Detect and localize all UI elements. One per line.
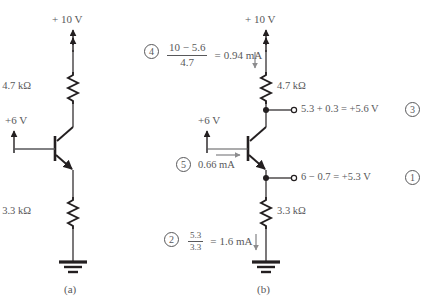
resistor-a-collector xyxy=(68,72,78,104)
callout-2: 2 xyxy=(164,232,179,247)
node-voltage-collector: 5.3 + 0.3 = +5.6 V xyxy=(301,104,379,115)
resistor-b-collector xyxy=(261,72,271,104)
caption-b: (b) xyxy=(257,283,270,295)
circuit-figure: + 10 V 4.7 kΩ +6 V 3.3 kΩ (a) + 10 V 4.7… xyxy=(0,0,427,301)
base-current-value: 0.66 mA xyxy=(198,160,235,171)
callout-4: 4 xyxy=(144,44,159,59)
node-voltage-emitter: 6 − 0.7 = +5.3 V xyxy=(301,172,371,183)
fraction-denominator: 4.7 xyxy=(178,56,196,69)
fraction-numerator: 5.3 xyxy=(188,231,203,242)
caption-a: (a) xyxy=(64,283,76,295)
resistor-b-emitter xyxy=(261,197,271,229)
callout-3: 3 xyxy=(405,102,420,117)
equation-step-2: 5.3 3.3 = 1.6 mA xyxy=(184,231,252,253)
resistor-label-a-emitter: 3.3 kΩ xyxy=(2,206,31,217)
base-supply-label-b: +6 V xyxy=(198,115,220,126)
circuit-a-artwork xyxy=(14,30,87,272)
terminal-emitter xyxy=(291,175,296,180)
equation-step-4: 10 − 5.6 4.7 = 0.94 mA xyxy=(163,42,262,68)
fraction-step-2: 5.3 3.3 xyxy=(188,231,203,253)
base-supply-a xyxy=(14,131,55,153)
base-supply-b xyxy=(207,131,248,153)
callout-1: 1 xyxy=(405,170,420,185)
transistor-b-emitter-lead xyxy=(249,155,265,169)
equals-sign: = xyxy=(210,236,216,247)
resistor-label-b-emitter: 3.3 kΩ xyxy=(277,206,306,217)
transistor-a-emitter-lead xyxy=(56,155,72,169)
equals-sign: = xyxy=(214,50,220,61)
transistor-a-collector-lead xyxy=(57,127,73,141)
resistor-label-b-collector: 4.7 kΩ xyxy=(277,81,306,92)
transistor-b-collector-lead xyxy=(250,127,266,141)
terminal-collector xyxy=(291,107,296,112)
equation-result: 1.6 mA xyxy=(219,236,252,247)
resistor-label-a-collector: 4.7 kΩ xyxy=(2,81,31,92)
callout-5: 5 xyxy=(176,157,191,172)
fraction-numerator: 10 − 5.6 xyxy=(167,42,207,56)
equation-result: 0.94 mA xyxy=(224,50,263,61)
supply-label-a: + 10 V xyxy=(52,14,82,25)
fraction-denominator: 3.3 xyxy=(188,242,203,252)
supply-label-b: + 10 V xyxy=(245,14,275,25)
fraction-step-4: 10 − 5.6 4.7 xyxy=(167,42,207,68)
ground-symbol-a xyxy=(59,262,87,272)
base-supply-label-a: +6 V xyxy=(5,115,27,126)
ground-symbol-b xyxy=(252,262,280,272)
resistor-a-emitter xyxy=(68,197,78,229)
